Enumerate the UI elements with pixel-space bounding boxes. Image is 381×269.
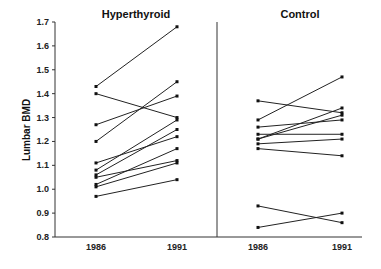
data-point [341,118,344,121]
data-point [95,85,98,88]
panel-title-hyperthyroid: Hyperthyroid [102,8,170,20]
data-point [341,107,344,110]
data-point [257,142,260,145]
x-tick-control-1986: 1986 [248,242,268,252]
data-point [176,118,179,121]
panel-title-control: Control [280,8,319,20]
subject-line [96,180,177,197]
data-point [176,147,179,150]
data-point [341,114,344,117]
data-point [257,204,260,207]
subject-line [258,149,342,156]
data-point [257,226,260,229]
data-point [95,161,98,164]
y-ticks: 0.80.91.01.11.21.31.41.51.61.7 [36,17,55,242]
x-tick-hyper-1986: 1986 [86,242,106,252]
y-axis-title: Lumbar BMD [21,99,32,161]
data-point [341,212,344,215]
y-tick-label: 0.9 [36,208,49,218]
y-tick-label: 1.4 [36,89,49,99]
y-tick-label: 1.3 [36,113,49,123]
data-point [176,80,179,83]
data-point [341,133,344,136]
data-point [257,138,260,141]
data-point [95,176,98,179]
subject-line [258,139,342,144]
subject-line [96,137,177,163]
data-point [95,169,98,172]
subject-line [258,77,342,120]
data-point [176,161,179,164]
data-point [341,154,344,157]
bmd-chart: 0.80.91.01.11.21.31.41.51.61.7 Lumbar BM… [0,0,381,269]
data-point [176,25,179,28]
y-tick-label: 1.6 [36,41,49,51]
y-tick-label: 1.5 [36,65,49,75]
data-point [176,128,179,131]
subject-line [96,27,177,87]
y-tick-label: 0.8 [36,232,49,242]
subject-line [96,94,177,118]
y-tick-label: 1.2 [36,136,49,146]
x-tick-control-1991: 1991 [332,242,352,252]
data-point [176,95,179,98]
data-point [95,140,98,143]
data-point [95,185,98,188]
data-point [341,221,344,224]
data-point [341,138,344,141]
subject-line [96,96,177,125]
y-tick-label: 1.7 [36,17,49,27]
subject-line [96,82,177,142]
y-tick-label: 1.1 [36,160,49,170]
data-point [257,126,260,129]
x-tick-hyper-1991: 1991 [167,242,187,252]
data-point [341,75,344,78]
subject-line [258,101,342,113]
data-point [257,118,260,121]
data-point [176,178,179,181]
data-point [176,135,179,138]
subject-line [258,115,342,139]
axes: 0.80.91.01.11.21.31.41.51.61.7 [36,17,362,242]
data-point [257,147,260,150]
data-point [257,133,260,136]
control-series [257,75,344,229]
subject-line [96,130,177,175]
data-point [95,195,98,198]
data-point [257,99,260,102]
hyperthyroid-series [95,25,179,198]
y-tick-label: 1.0 [36,184,49,194]
data-point [95,92,98,95]
data-point [95,123,98,126]
